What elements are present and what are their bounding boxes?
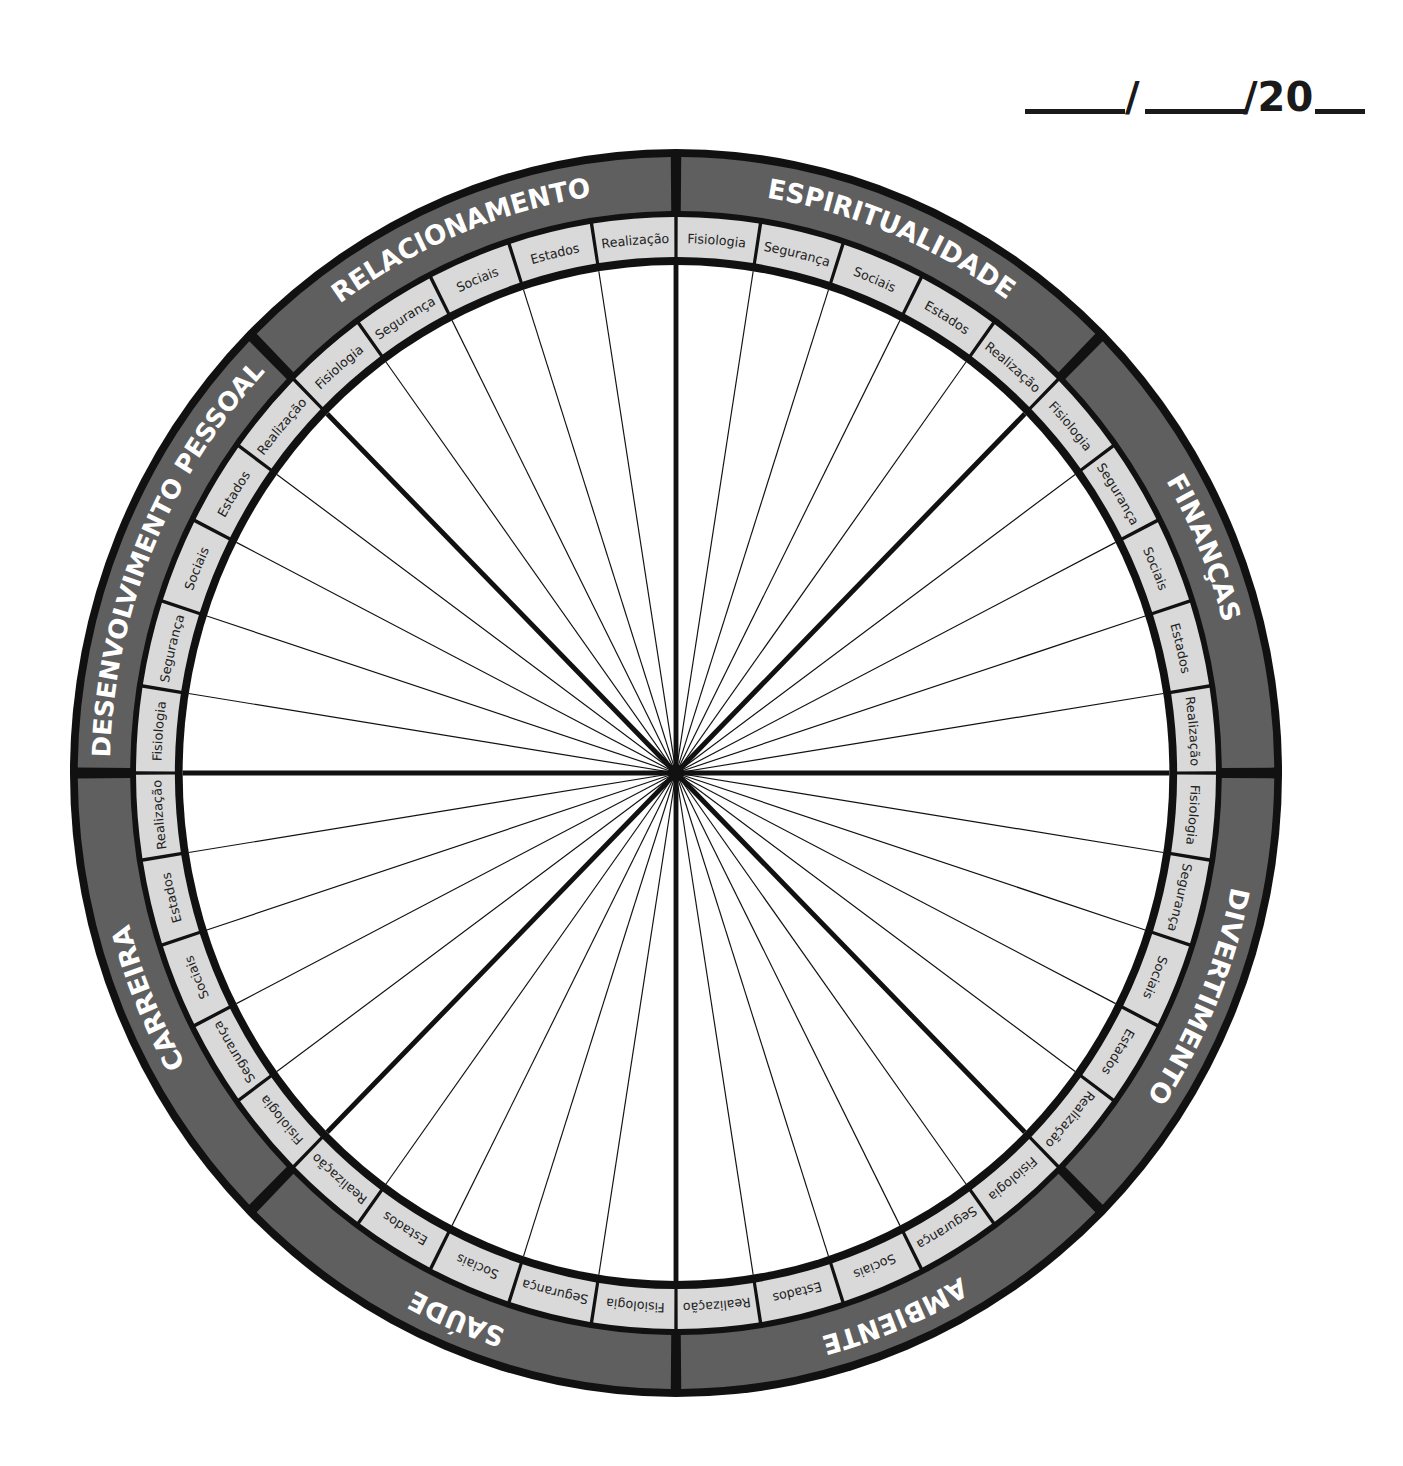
wheel-root: ESPIRITUALIDADEFisiologiaSegurançaSociai… (70, 149, 1282, 1397)
wheel-hub (668, 765, 684, 781)
life-wheel-diagram: ESPIRITUALIDADEFisiologiaSegurançaSociai… (0, 0, 1403, 1466)
